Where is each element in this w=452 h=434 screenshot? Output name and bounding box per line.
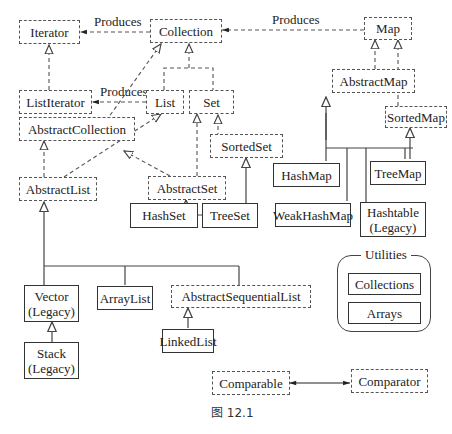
node-linked-list: LinkedList: [162, 329, 214, 353]
utilities-title: Utilities: [361, 247, 411, 263]
node-abstract-collection: AbstractCollection: [19, 117, 135, 141]
node-list-iterator: ListIterator: [19, 90, 92, 114]
node-set: Set: [189, 90, 234, 114]
node-tree-map: TreeMap: [370, 161, 426, 185]
node-vector-label: Vector: [35, 289, 69, 304]
produces-label-iterator: Produces: [94, 14, 142, 30]
node-abstract-set: AbstractSet: [148, 176, 226, 200]
node-map: Map: [364, 17, 412, 40]
node-stack-label: Stack: [37, 346, 66, 361]
produces-label-map: Produces: [272, 12, 320, 28]
node-hashtable: Hashtable (Legacy): [360, 202, 426, 237]
utility-collections: Collections: [348, 273, 421, 295]
node-vector-sub: (Legacy): [28, 304, 75, 319]
node-stack-sub: (Legacy): [28, 361, 75, 376]
node-comparable: Comparable: [212, 371, 290, 395]
node-sorted-map: SortedMap: [385, 106, 447, 128]
utility-arrays: Arrays: [348, 302, 421, 324]
node-abstract-sequential-list: AbstractSequentialList: [171, 285, 311, 308]
node-stack: Stack (Legacy): [24, 342, 79, 379]
produces-label-listiterator: Produces: [100, 84, 148, 100]
node-hashtable-sub: (Legacy): [370, 220, 417, 235]
node-abstract-list: AbstractList: [19, 177, 97, 201]
node-hash-set: HashSet: [130, 203, 198, 228]
node-hashtable-label: Hashtable: [367, 205, 419, 220]
node-collection: Collection: [150, 19, 222, 43]
node-iterator: Iterator: [19, 20, 80, 44]
node-vector: Vector (Legacy): [24, 285, 79, 322]
node-tree-set: TreeSet: [202, 203, 258, 228]
figure-caption: 图 12.1: [211, 403, 254, 420]
node-hash-map: HashMap: [273, 163, 340, 187]
node-array-list: ArrayList: [97, 286, 153, 310]
node-comparator: Comparator: [351, 369, 428, 393]
node-weak-hash-map: WeakHashMap: [275, 203, 351, 227]
node-list: List: [146, 90, 184, 114]
node-sorted-set: SortedSet: [210, 134, 283, 158]
node-abstract-map: AbstractMap: [332, 69, 415, 93]
